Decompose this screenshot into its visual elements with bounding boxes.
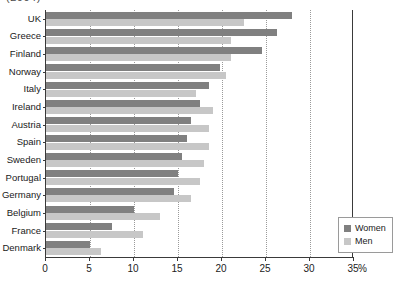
chart-title-fragment: (2004) [6, 0, 41, 3]
bar-women [46, 82, 209, 89]
bar-row [46, 28, 353, 46]
bar-row [46, 10, 353, 28]
bar-men [46, 19, 244, 26]
category-label-germany: Germany [0, 190, 41, 200]
chart-legend: WomenMen [338, 217, 393, 253]
bar-row [46, 239, 353, 257]
bar-row [46, 169, 353, 187]
bar-women [46, 29, 277, 36]
bar-women [46, 241, 90, 248]
category-label-denmark: Denmark [0, 243, 41, 253]
x-axis-unit-label: % [358, 263, 367, 274]
x-tick-mark-10 [133, 257, 134, 261]
x-tick-mark-35 [353, 257, 354, 261]
x-tick-mark-5 [89, 257, 90, 261]
x-tick-mark-15 [177, 257, 178, 261]
bar-women [46, 117, 191, 124]
category-label-ireland: Ireland [0, 102, 41, 112]
x-tick-label-25: 25 [259, 263, 270, 274]
category-label-france: France [0, 226, 41, 236]
bar-row [46, 134, 353, 152]
bar-men [46, 72, 226, 79]
x-tick-label-15: 15 [171, 263, 182, 274]
bar-row [46, 81, 353, 99]
category-label-belgium: Belgium [0, 208, 41, 218]
x-tick-mark-0 [45, 257, 46, 261]
bar-men [46, 195, 191, 202]
bar-row [46, 116, 353, 134]
bar-women [46, 170, 178, 177]
category-label-austria: Austria [0, 120, 41, 130]
bar-row [46, 98, 353, 116]
bar-row [46, 222, 353, 240]
bar-men [46, 248, 101, 255]
bar-men [46, 178, 200, 185]
x-tick-mark-25 [265, 257, 266, 261]
bar-women [46, 206, 134, 213]
x-tick-mark-30 [309, 257, 310, 261]
x-tick-mark-20 [221, 257, 222, 261]
category-label-portugal: Portugal [0, 173, 41, 183]
bar-row [46, 63, 353, 81]
bar-men [46, 125, 209, 132]
bar-men [46, 107, 213, 114]
bar-women [46, 100, 200, 107]
bar-men [46, 160, 204, 167]
legend-label: Men [355, 235, 373, 248]
bar-men [46, 90, 196, 97]
bar-women [46, 12, 292, 19]
bar-men [46, 37, 231, 44]
category-label-greece: Greece [0, 31, 41, 41]
bar-men [46, 143, 209, 150]
bar-men [46, 213, 160, 220]
legend-item-women: Women [344, 222, 387, 235]
category-label-italy: Italy [0, 84, 41, 94]
x-tick-label-10: 10 [127, 263, 138, 274]
square-swatch-icon [344, 225, 351, 232]
bar-row [46, 151, 353, 169]
bar-row [46, 186, 353, 204]
bar-women [46, 153, 182, 160]
bar-women [46, 223, 112, 230]
x-axis-line [45, 257, 354, 258]
x-tick-label-5: 5 [86, 263, 92, 274]
bar-women [46, 64, 220, 71]
bar-row [46, 45, 353, 63]
bar-women [46, 135, 187, 142]
bar-women [46, 47, 262, 54]
x-tick-label-35: 35 [347, 263, 358, 274]
category-label-uk: UK [0, 14, 41, 24]
category-label-spain: Spain [0, 137, 41, 147]
bar-men [46, 54, 231, 61]
legend-item-men: Men [344, 235, 387, 248]
x-tick-label-30: 30 [303, 263, 314, 274]
bar-row [46, 204, 353, 222]
legend-label: Women [355, 222, 386, 235]
x-tick-label-20: 20 [215, 263, 226, 274]
x-tick-label-0: 0 [42, 263, 48, 274]
category-label-norway: Norway [0, 67, 41, 77]
category-label-finland: Finland [0, 49, 41, 59]
bar-men [46, 231, 143, 238]
square-swatch-icon [344, 238, 351, 245]
plot-area: WomenMen [45, 10, 353, 257]
category-label-sweden: Sweden [0, 155, 41, 165]
bar-women [46, 188, 174, 195]
